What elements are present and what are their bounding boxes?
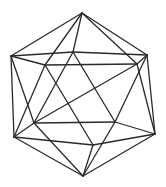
edge-LU-IM	[11, 52, 73, 56]
edge-ML-B	[34, 123, 83, 176]
edge-RU-RL	[147, 55, 155, 134]
edge-LU-IL	[11, 56, 45, 65]
icosahedron-wireframe	[0, 0, 166, 187]
edge-IL-BM	[45, 65, 93, 145]
edge-IM-RU	[73, 52, 147, 55]
icosahedron-figure	[0, 0, 166, 187]
edge-T-RU	[82, 13, 147, 55]
edge-RU-MR	[115, 55, 147, 122]
edge-IR-RL	[137, 64, 155, 134]
edge-ML-MR	[34, 122, 115, 123]
edge-T-LU	[11, 13, 82, 56]
edge-MR-RL	[115, 122, 155, 134]
edge-IM-MR	[73, 52, 115, 122]
edge-T-IR	[82, 13, 137, 64]
edge-LU-ML	[11, 56, 34, 123]
edge-IL-IR	[45, 64, 137, 65]
edge-MR-B	[83, 122, 115, 176]
edge-LU-LL	[11, 56, 14, 137]
